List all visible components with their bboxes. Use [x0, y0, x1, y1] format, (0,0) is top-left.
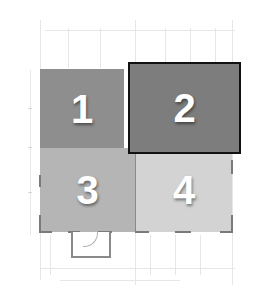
grid-line [215, 28, 216, 63]
wall-segment [231, 215, 233, 233]
room-2-label: 2 [173, 88, 195, 128]
grid-line [68, 28, 69, 68]
grid-line [50, 235, 51, 275]
grid-line [190, 28, 191, 63]
dimension-line-left [30, 70, 31, 235]
room-1[interactable]: 1 [40, 69, 124, 148]
wall-segment [39, 175, 41, 187]
room-2-selected[interactable]: 2 [128, 62, 241, 154]
room-4[interactable]: 4 [135, 153, 232, 232]
room-1-label: 1 [71, 89, 93, 129]
wall-segment [231, 160, 233, 174]
dimension-line-bottom [40, 268, 235, 269]
grid-line [100, 28, 101, 68]
wall-segment [39, 215, 41, 233]
wall-segment [135, 231, 149, 233]
dimension-tick [28, 192, 32, 193]
dimension-line-bottom [60, 280, 180, 281]
room-4-label: 4 [173, 170, 195, 210]
grid-line [175, 235, 176, 275]
door-swing-icon [83, 232, 98, 247]
dimension-tick [28, 147, 32, 148]
entry-porch [71, 232, 111, 258]
room-3[interactable]: 3 [40, 148, 135, 232]
wall-segment [175, 231, 191, 233]
grid-line [200, 235, 201, 275]
dimension-tick [28, 108, 32, 109]
grid-line [150, 235, 151, 275]
dimension-line-top [45, 30, 235, 31]
grid-line [165, 28, 166, 63]
room-3-label: 3 [76, 170, 98, 210]
wall-segment [40, 231, 52, 233]
